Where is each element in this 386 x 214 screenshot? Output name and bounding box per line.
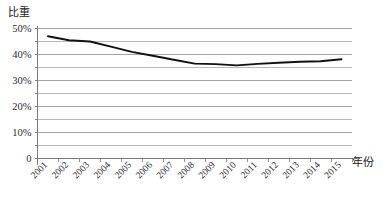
y-tick-label: 50% [12, 23, 32, 34]
minor-gridlines [38, 42, 353, 146]
axis-lines [38, 26, 361, 165]
x-axis-tick-labels: 2001200220032004200520062007200820092010… [29, 160, 343, 181]
x-tick-label: 2009 [197, 160, 218, 181]
x-tick-label: 2004 [92, 160, 113, 181]
y-tick-label: 40% [12, 49, 32, 60]
chart-container: 比重 年份 010%20%30%40%50% 20012002200320042… [0, 0, 386, 214]
data-series-line [48, 36, 342, 65]
line-chart-plot: 010%20%30%40%50% 20012002200320042005200… [0, 0, 386, 214]
x-tick-label: 2002 [50, 160, 71, 181]
x-tick-label: 2005 [113, 160, 134, 181]
x-tick-label: 2008 [176, 160, 197, 181]
y-tick-label: 20% [12, 101, 32, 112]
x-tick-label: 2001 [29, 160, 50, 181]
y-tick-label: 10% [12, 127, 32, 138]
x-tick-label: 2014 [301, 160, 322, 181]
x-tick-label: 2011 [239, 160, 259, 180]
major-gridlines [38, 29, 353, 133]
y-tick-label: 0 [26, 153, 31, 164]
y-tick-label: 30% [12, 75, 32, 86]
x-tick-label: 2015 [322, 160, 343, 181]
x-tick-label: 2006 [134, 160, 155, 181]
y-axis-tick-labels: 010%20%30%40%50% [12, 23, 32, 164]
x-tick-label: 2013 [280, 160, 301, 181]
x-tick-label: 2007 [155, 160, 176, 181]
x-tick-label: 2003 [71, 160, 92, 181]
x-tick-label: 2012 [260, 160, 281, 181]
x-tick-label: 2010 [218, 160, 239, 181]
